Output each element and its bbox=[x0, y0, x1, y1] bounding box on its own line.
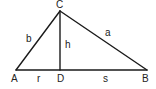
side-a-label: a bbox=[105, 27, 111, 38]
side-b-line bbox=[16, 11, 60, 70]
side-a-line bbox=[60, 11, 147, 70]
segment-r-label: r bbox=[37, 73, 41, 84]
vertex-c-label: C bbox=[56, 0, 63, 10]
triangle-diagram: C A D B b h a r s bbox=[0, 0, 156, 89]
side-b-label: b bbox=[26, 33, 32, 44]
vertex-d-label: D bbox=[57, 73, 64, 84]
segment-s-label: s bbox=[103, 73, 108, 84]
vertex-b-label: B bbox=[142, 73, 149, 84]
altitude-h-label: h bbox=[65, 39, 71, 50]
vertex-a-label: A bbox=[11, 73, 18, 84]
